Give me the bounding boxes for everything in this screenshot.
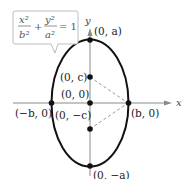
y-axis-arrow-icon (88, 28, 93, 36)
point-labels: (0, a) (0, c) (0, 0) (0, −c) (−b, 0) (b,… (15, 25, 159, 179)
point-top-vertex (87, 37, 93, 43)
equation-callout: x² b² + y² a² = 1 (13, 11, 78, 53)
point-left-covertex (49, 100, 55, 106)
eq-term2-denominator: a² (45, 29, 55, 40)
point-focus-lower (87, 126, 93, 132)
point-bottom-vertex (87, 163, 93, 169)
label-right-covertex: (b, 0) (131, 107, 159, 119)
label-bottom-vertex: (0, −a) (93, 169, 130, 179)
eq-term1-numerator: x² (19, 14, 29, 25)
eq-plus: + (34, 21, 42, 32)
x-axis-arrow-icon (164, 101, 172, 106)
label-top-vertex: (0, a) (94, 25, 122, 37)
x-axis-label: x (176, 97, 182, 108)
eq-term2-numerator: y² (44, 14, 55, 25)
dashed-line-lower (90, 103, 128, 129)
dashed-line-upper (90, 77, 128, 103)
label-center: (0, 0) (61, 88, 89, 100)
point-right-covertex (126, 100, 132, 106)
label-left-covertex: (−b, 0) (15, 107, 52, 119)
point-center (87, 100, 93, 106)
ellipse-diagram: x y (0, a) (0, c) (0, 0) (0, −c) (−b, 0)… (0, 0, 190, 179)
y-axis-label: y (84, 15, 91, 26)
point-focus-upper (87, 74, 93, 80)
eq-term1-denominator: b² (19, 29, 29, 40)
label-focus-lower: (0, −c) (55, 109, 91, 121)
label-focus-upper: (0, c) (60, 71, 87, 83)
eq-rhs: = 1 (59, 21, 77, 32)
